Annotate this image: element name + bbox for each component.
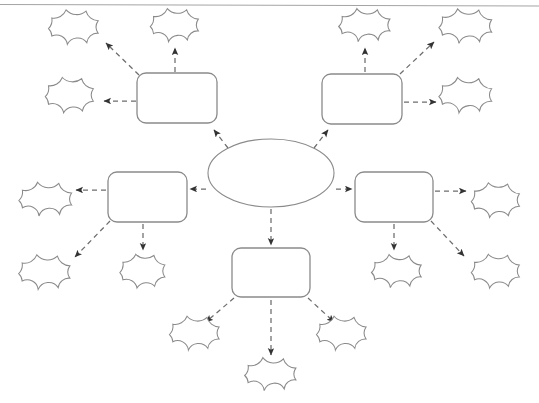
cloud-tr-side[interactable] [439,78,492,113]
cloud-outline [339,9,390,42]
cloud-bottom-center[interactable] [245,358,296,391]
center-oval[interactable] [208,139,334,207]
cloud-outline [471,254,519,288]
cloud-outline [372,255,422,288]
box-outline [108,172,187,222]
cloud-tr-upper-right[interactable] [439,9,492,44]
dashed-arrow-connector [106,43,139,75]
center-node-layer [208,139,334,207]
dashed-arrow-connector [431,221,464,256]
dashed-arrow-connector [314,130,328,148]
cloud-tl-upper-left[interactable] [49,10,99,45]
box-outline [355,172,433,222]
cloud-outline [150,9,198,42]
arrow-center-to-box-top-left [214,130,228,148]
box-outline [232,248,310,297]
cloud-tl-upper-right[interactable] [150,9,198,42]
center-oval-outline [208,139,334,207]
cloud-outline [471,183,519,218]
cloud-outline [49,10,99,45]
box-outline [137,73,217,123]
arrow-box-bottom-to-cloud-13 [206,298,234,322]
box-top-right[interactable] [322,74,402,124]
dashed-arrow-connector [214,130,228,148]
cloud-outline [19,255,70,290]
cloud-mr-lower-left[interactable] [372,255,422,288]
box-outline [322,74,402,124]
arrow-center-to-box-top-right [314,130,328,148]
arrow-box-top-left-to-cloud-1 [106,43,139,75]
cloud-bottom-right[interactable] [317,316,367,350]
cloud-outline [19,182,72,216]
cloud-outline [245,358,296,391]
dashed-arrow-connector [400,42,434,74]
dashed-arrow-connector [308,298,334,322]
cloud-outline [45,78,93,113]
cloud-ml-lower-right[interactable] [120,254,165,288]
cloud-bottom-left[interactable] [170,316,220,350]
concept-map-diagram [0,0,539,403]
cloud-ml-lower-left[interactable] [19,255,70,290]
cloud-outline [120,254,165,288]
arrow-box-bottom-to-cloud-15 [308,298,334,322]
cloud-tr-upper-left[interactable] [339,9,390,42]
arrow-box-top-right-to-cloud-5 [400,42,434,74]
dashed-arrow-connector [75,221,110,257]
arrow-box-middle-left-to-cloud-8 [75,221,110,257]
box-middle-left[interactable] [108,172,187,222]
cloud-tl-side[interactable] [45,78,93,113]
dashed-arrow-connector [206,298,234,322]
cloud-mr-lower-right[interactable] [471,254,519,288]
cloud-outline [317,316,367,350]
arrow-box-middle-right-to-cloud-12 [431,221,464,256]
cloud-ml-side[interactable] [19,182,72,216]
cloud-mr-side[interactable] [471,183,519,218]
box-middle-right[interactable] [355,172,433,222]
worksheet-canvas [0,0,539,403]
box-bottom[interactable] [232,248,310,297]
cloud-outline [439,78,492,113]
cloud-outline [170,316,220,350]
box-top-left[interactable] [137,73,217,123]
top-horizontal-rule [0,5,539,7]
cloud-outline [439,9,492,44]
